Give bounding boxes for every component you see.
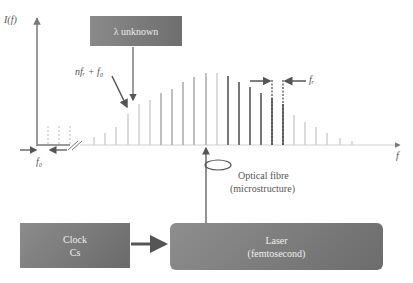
optical-fibre-loop-icon	[205, 160, 231, 170]
lambda-unknown-box: λ unknown	[90, 16, 182, 46]
femtosecond-laser-box: Laser (femtosecond)	[170, 223, 383, 270]
x-axis-label: f	[396, 150, 399, 161]
comb-mode-arrow	[112, 76, 127, 107]
laser-label-line2: (femtosecond)	[248, 247, 306, 260]
rep-rate-label: fᵣ	[309, 74, 314, 85]
fibre-label-line2: (microstructure)	[230, 183, 295, 194]
y-axis-label: I(f)	[4, 14, 17, 25]
clock-label-line1: Clock	[63, 233, 87, 246]
clock-label-line2: Cs	[70, 246, 81, 259]
fibre-label-line1: Optical fibre	[238, 170, 289, 181]
laser-label-line1: Laser	[265, 234, 287, 247]
offset-freq-label: f₀	[36, 156, 42, 167]
clock-cs-box: Clock Cs	[20, 223, 130, 268]
lambda-unknown-label: λ unknown	[114, 25, 159, 38]
comb-mode-label: nfᵣ + f₀	[75, 66, 103, 77]
